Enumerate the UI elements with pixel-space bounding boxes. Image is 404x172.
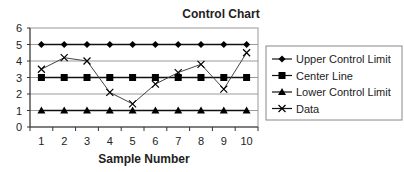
- x-tick-label: 10: [240, 135, 252, 147]
- square-marker-icon: [84, 74, 91, 81]
- square-marker-icon: [152, 74, 159, 81]
- y-tick-label: 4: [16, 55, 22, 67]
- chart-title: Control Chart: [182, 7, 259, 21]
- x-tick-label: 4: [107, 135, 113, 147]
- square-marker-icon: [279, 72, 286, 79]
- legend-label: Data: [296, 103, 320, 115]
- y-axis: 0123456: [16, 22, 30, 133]
- y-tick-label: 0: [16, 121, 22, 133]
- x-tick-label: 5: [130, 135, 136, 147]
- x-axis-label: Sample Number: [98, 152, 190, 166]
- square-marker-icon: [198, 74, 205, 81]
- square-marker-icon: [38, 74, 45, 81]
- square-marker-icon: [106, 74, 113, 81]
- plot-area: [30, 28, 258, 127]
- legend-label: Upper Control Limit: [296, 53, 391, 65]
- x-axis: 12345678910: [30, 127, 258, 147]
- control-chart: Control Chart 0123456 12345678910 Sample…: [0, 0, 404, 172]
- y-tick-label: 6: [16, 22, 22, 34]
- x-tick-label: 2: [61, 135, 67, 147]
- x-tick-label: 7: [175, 135, 181, 147]
- legend: Upper Control LimitCenter LineLower Cont…: [266, 46, 402, 120]
- x-tick-label: 3: [84, 135, 90, 147]
- x-tick-label: 8: [198, 135, 204, 147]
- y-tick-label: 1: [16, 105, 22, 117]
- square-marker-icon: [61, 74, 68, 81]
- square-marker-icon: [220, 74, 227, 81]
- y-tick-label: 3: [16, 72, 22, 84]
- legend-label: Center Line: [296, 70, 353, 82]
- square-marker-icon: [243, 74, 250, 81]
- x-tick-label: 9: [221, 135, 227, 147]
- square-marker-icon: [129, 74, 136, 81]
- x-tick-label: 6: [152, 135, 158, 147]
- x-tick-label: 1: [38, 135, 44, 147]
- y-tick-label: 2: [16, 88, 22, 100]
- legend-label: Lower Control Limit: [296, 86, 391, 98]
- y-tick-label: 5: [16, 39, 22, 51]
